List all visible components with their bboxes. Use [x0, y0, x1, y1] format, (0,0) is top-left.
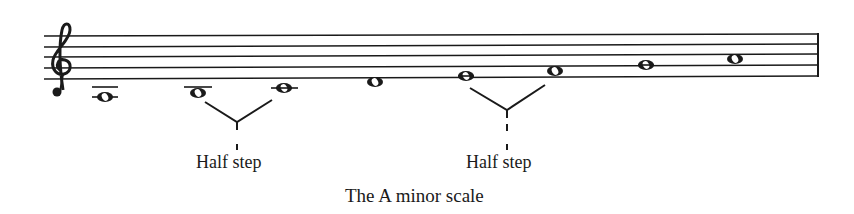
staff-notation — [0, 0, 854, 214]
note-a3 — [97, 92, 113, 102]
figure-caption: The A minor scale — [345, 185, 484, 207]
note-a4 — [727, 54, 743, 64]
staff-lines — [44, 34, 818, 79]
note-d4 — [367, 77, 383, 87]
treble-clef-icon — [53, 24, 71, 97]
half-step-label-1: Half step — [196, 152, 261, 173]
half-step-label-2: Half step — [466, 152, 531, 173]
note-e4 — [458, 71, 474, 81]
music-figure: Half step Half step The A minor scale — [0, 0, 854, 214]
half-step-bracket-1 — [205, 100, 272, 150]
note-c4 — [276, 83, 292, 93]
note-b3 — [190, 88, 206, 98]
note-f4 — [547, 66, 563, 76]
half-step-bracket-2 — [470, 85, 545, 150]
note-g4 — [638, 60, 654, 70]
